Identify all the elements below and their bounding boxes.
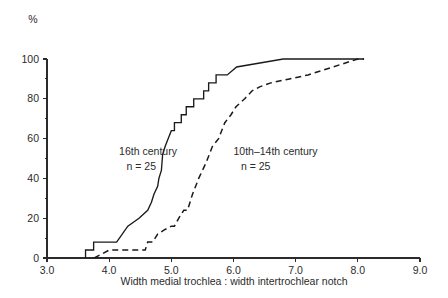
y-tick-label: 80 [27,92,39,104]
y-tick-label: 40 [27,172,39,184]
x-axis: 3.04.05.06.07.08.09.0 [40,258,428,276]
chart-annotations: 16th centuryn = 2510th–14th centuryn = 2… [119,145,318,173]
data-series-group [86,59,365,258]
x-axis-major-ticks [47,258,420,262]
cumulative-distribution-chart: % 020406080100 3.04.05.06.07.08.09.0 16t… [0,0,448,298]
annot-16th-n: n = 25 [127,160,157,172]
y-axis-tick-labels: 020406080100 [21,53,39,264]
x-tick-label: 3.0 [40,264,55,276]
x-tick-label: 9.0 [413,264,428,276]
annot-10th-n: n = 25 [241,160,271,172]
annot-16th: 16th century [119,145,178,157]
figure-container: % 020406080100 3.04.05.06.07.08.09.0 16t… [0,0,448,298]
y-axis-unit-label: % [28,13,37,25]
annot-10th: 10th–14th century [234,145,319,157]
y-tick-label: 20 [27,212,39,224]
series-line-10th-14th-century [94,59,364,258]
y-tick-label: 60 [27,132,39,144]
series-line-16th-century [86,59,365,258]
y-tick-label: 0 [33,252,39,264]
y-tick-label: 100 [21,53,39,65]
y-axis-unit-label-group: % [28,13,37,25]
x-axis-title: Width medial trochlea : width intertroch… [120,275,347,287]
x-tick-label: 8.0 [351,264,366,276]
x-tick-label: 4.0 [102,264,117,276]
y-axis: 020406080100 [21,53,47,264]
